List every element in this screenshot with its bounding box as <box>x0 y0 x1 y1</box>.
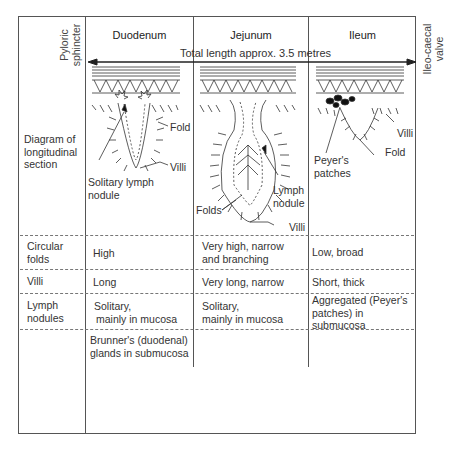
duodenum-villi: Long <box>93 276 116 289</box>
row-label-lymph-nodules-line2: nodules <box>27 312 64 325</box>
jejunum-lymph-nodules: Solitary, mainly in mucosa <box>202 300 283 325</box>
duodenum-nodule-label-line2: nodule <box>88 189 154 202</box>
duodenum-villi-label: Villi <box>170 161 186 174</box>
row-label-circular-folds-line1: Circular <box>27 240 63 253</box>
jejunum-folds-label: Folds <box>196 204 222 217</box>
jejunum-circular-folds-line1: Very high, narrow <box>202 240 284 253</box>
row-label-lymph-nodules: Lymph nodules <box>27 299 64 324</box>
ileum-lymph-nodules-line1: Aggregated (Peyer's <box>312 294 407 307</box>
row-label-villi: Villi <box>27 275 43 288</box>
longitudinal-section-illustrations <box>0 0 455 449</box>
length-arrow <box>88 59 416 65</box>
ileum-section-drawing <box>316 67 404 155</box>
ileum-patches-label-line1: Peyer's <box>314 154 351 167</box>
ileum-villi-label: Villi <box>397 127 413 140</box>
duodenum-glands-line1: Brunner's (duodenal) <box>90 334 189 347</box>
duodenum-nodule-label-line1: Solitary lymph <box>88 176 154 189</box>
duodenum-nodule-label: Solitary lymph nodule <box>88 176 154 201</box>
duodenum-glands-line2: glands in submucosa <box>90 347 189 360</box>
jejunum-lymph-nodules-line1: Solitary, <box>202 300 283 313</box>
row-label-circular-folds-line2: folds <box>27 253 63 266</box>
duodenum-section-drawing <box>92 67 180 171</box>
jejunum-circular-folds: Very high, narrow and branching <box>202 240 284 265</box>
row-label-diagram: Diagram of longitudinal section <box>24 133 77 171</box>
ileum-patches-label: Peyer's patches <box>314 154 351 179</box>
jejunum-nodule-label-line1: Lymph <box>273 184 305 197</box>
duodenum-circular-folds: High <box>93 247 115 260</box>
duodenum-lymph-nodules: Solitary, mainly in mucosa <box>94 300 177 325</box>
ileum-patches-label-line2: patches <box>314 167 351 180</box>
jejunum-villi: Very long, narrow <box>202 276 284 289</box>
jejunum-villi-label: Villi <box>289 221 305 234</box>
jejunum-circular-folds-line2: and branching <box>202 253 284 266</box>
jejunum-lymph-nodules-line2: mainly in mucosa <box>202 313 283 326</box>
ileum-lymph-nodules-line2: patches) in <box>312 307 407 320</box>
row-label-diagram-line2: longitudinal <box>24 146 77 159</box>
duodenum-lymph-nodules-line2: mainly in mucosa <box>94 313 177 326</box>
jejunum-nodule-label: Lymph nodule <box>273 184 305 209</box>
ileum-circular-folds: Low, broad <box>312 246 363 259</box>
row-label-lymph-nodules-line1: Lymph <box>27 299 64 312</box>
ileum-fold-label: Fold <box>385 146 405 159</box>
duodenum-fold-label: Fold <box>170 121 190 134</box>
row-label-diagram-line1: Diagram of <box>24 133 77 146</box>
duodenum-glands: Brunner's (duodenal) glands in submucosa <box>90 334 189 359</box>
jejunum-nodule-label-line2: nodule <box>273 197 305 210</box>
ileum-lymph-nodules: Aggregated (Peyer's patches) in submucos… <box>312 294 407 332</box>
ileum-lymph-nodules-line3: submucosa <box>312 319 407 332</box>
row-label-diagram-line3: section <box>24 158 77 171</box>
duodenum-lymph-nodules-line1: Solitary, <box>94 300 177 313</box>
row-label-circular-folds: Circular folds <box>27 240 63 265</box>
ileum-villi: Short, thick <box>312 276 365 289</box>
